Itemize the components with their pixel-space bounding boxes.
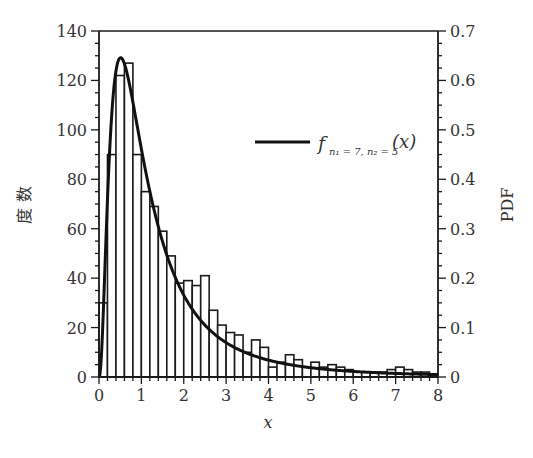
histogram-bar	[141, 192, 149, 377]
histogram-bars	[99, 63, 438, 377]
histogram-bar	[175, 283, 183, 377]
legend-label-subscript: n₁ = 7, n₂ = 5	[329, 146, 398, 157]
legend-label-argument: (x)	[392, 131, 416, 152]
y-left-tick-label: 80	[67, 170, 87, 189]
histogram-bar	[150, 206, 158, 377]
x-tick-label: 1	[136, 386, 146, 405]
x-axis-label: x	[263, 413, 272, 432]
y-right-tick-label: 0.4	[450, 170, 475, 189]
histogram-bar	[218, 325, 226, 377]
histogram-bar	[294, 360, 302, 377]
y-left-tick-label: 100	[56, 121, 87, 140]
histogram-bar	[192, 286, 200, 377]
legend: f n₁ = 7, n₂ = 5 (x)	[255, 131, 416, 157]
y-right-tick-label: 0.1	[450, 319, 475, 338]
histogram-bar	[235, 335, 243, 377]
histogram-bar	[116, 75, 124, 377]
y-right-tick-label: 0.6	[450, 71, 475, 90]
y-right-tick-label: 0.3	[450, 220, 475, 239]
y-right-tick-label: 0.2	[450, 269, 475, 288]
legend-label-f: f	[316, 132, 328, 154]
y-left-tick-label: 40	[67, 269, 87, 288]
y-left-tick-label: 20	[67, 319, 87, 338]
x-tick-label: 4	[263, 386, 273, 405]
y-left-tick-label: 60	[67, 220, 87, 239]
y-right-tick-label: 0	[450, 368, 460, 387]
histogram-bar	[269, 367, 277, 377]
y-left-tick-label: 140	[56, 22, 87, 41]
y-right-tick-label: 0.5	[450, 121, 475, 140]
x-tick-label: 5	[306, 386, 316, 405]
y-axis-right-label: PDF	[498, 188, 517, 223]
x-tick-label: 7	[391, 386, 401, 405]
x-tick-label: 3	[221, 386, 231, 405]
histogram-bar	[209, 310, 217, 377]
y-axis-left-label: 度 数	[15, 186, 34, 223]
x-tick-label: 2	[179, 386, 189, 405]
x-tick-label: 6	[348, 386, 358, 405]
y-left-tick-label: 120	[56, 71, 87, 90]
chart-canvas: 01234567802040608010012014000.10.20.30.4…	[0, 0, 533, 458]
x-tick-label: 0	[94, 386, 104, 405]
histogram-bar	[226, 333, 234, 377]
histogram-bar	[133, 155, 141, 377]
histogram-bar	[124, 63, 132, 377]
y-left-tick-label: 0	[77, 368, 87, 387]
histogram-bar	[260, 347, 268, 377]
x-tick-label: 8	[433, 386, 443, 405]
y-right-tick-label: 0.7	[450, 22, 475, 41]
